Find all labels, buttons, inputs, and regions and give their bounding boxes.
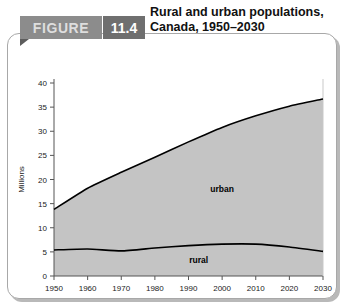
y-axis-tick-label: 20: [38, 176, 47, 185]
y-axis-tick-label: 35: [38, 103, 47, 112]
x-axis-tick-label: 1960: [79, 284, 97, 293]
series-annotation-rural: rural: [189, 255, 208, 265]
x-axis-tick-label: 2000: [213, 284, 231, 293]
series-annotation-urban: urban: [210, 184, 234, 194]
figure-title-line1: Rural and urban populations,: [150, 5, 346, 20]
figure-title: Rural and urban populations, Canada, 195…: [150, 5, 346, 35]
y-axis-tick-label: 40: [38, 79, 47, 88]
x-axis-tick-label: 1990: [180, 284, 198, 293]
y-axis-tick-label: 10: [38, 224, 47, 233]
x-axis-tick-label: 2030: [314, 284, 332, 293]
x-axis-tick-label: 1970: [112, 284, 130, 293]
y-axis-title: Millions: [17, 166, 26, 193]
chart-area: 0510152025303540195019601970198019902000…: [7, 33, 337, 299]
x-axis-tick-label: 2020: [280, 284, 298, 293]
area-chart: 0510152025303540195019601970198019902000…: [7, 33, 337, 299]
x-axis-tick-label: 1980: [146, 284, 164, 293]
figure-card: FIGURE 11.4 Rural and urban populations,…: [6, 4, 340, 300]
x-axis-tick-label: 1950: [45, 284, 63, 293]
y-axis-tick-label: 25: [38, 151, 47, 160]
x-axis-tick-label: 2010: [247, 284, 265, 293]
y-axis-tick-label: 15: [38, 200, 47, 209]
y-axis-tick-label: 0: [43, 272, 48, 281]
y-axis-tick-label: 5: [43, 248, 48, 257]
y-axis-tick-label: 30: [38, 127, 47, 136]
